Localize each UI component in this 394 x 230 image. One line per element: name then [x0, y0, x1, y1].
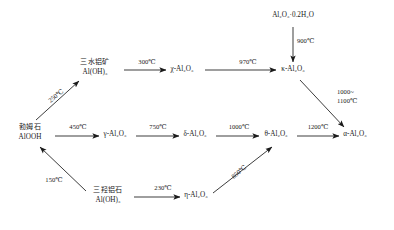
- node-eta-alumina-formula: η-Al₂O₃: [171, 191, 221, 201]
- node-delta-alumina: δ-Al₂O₃: [170, 130, 220, 140]
- node-kappa-alumina: κ-Al₂O₃: [268, 65, 318, 75]
- node-chi-alumina-formula: χ-Al₂O₃: [157, 65, 207, 75]
- node-eta-alumina: η-Al₂O₃: [171, 191, 221, 201]
- arrow-bayerite-to-boehmite: [40, 147, 86, 191]
- edge-label-900c-text: 900℃: [297, 37, 314, 44]
- node-gibbsite-name: 三水铝矿: [65, 58, 125, 68]
- node-chi-alumina: χ-Al₂O₃: [157, 65, 207, 75]
- node-alumina-hydrate-formula: Al₂O₃·0.2H₂O: [248, 11, 338, 21]
- edge-label-300c: 300℃: [129, 58, 165, 66]
- edge-label-900c: 900℃: [297, 37, 333, 45]
- edge-label-1200c: 1200℃: [298, 123, 338, 131]
- edge-label-750c-text: 750℃: [149, 123, 166, 130]
- edge-label-300c-text: 300℃: [138, 58, 155, 65]
- edge-label-1000-1100c: 1000~ 1100℃: [337, 88, 375, 105]
- edge-label-150c: 150℃: [36, 176, 72, 184]
- edge-label-1200c-text: 1200℃: [308, 123, 329, 130]
- node-boehmite-formula: AlOOH: [4, 133, 56, 143]
- node-gamma-alumina: γ-Al₂O₃: [90, 130, 140, 140]
- phase-transformation-diagram: 三水铝矿 Al(OH)₃ χ-Al₂O₃ Al₂O₃·0.2H₂O κ-Al₂O…: [0, 0, 394, 230]
- edge-label-450c-text: 450℃: [69, 123, 86, 130]
- edge-label-1000-1100c-line1: 1000~: [337, 88, 354, 95]
- edge-label-1000-1100c-line2: 1100℃: [337, 97, 357, 104]
- node-gibbsite-formula: Al(OH)₃: [65, 68, 125, 78]
- node-bayerite: 三羟铝石 Al(OH)₃: [78, 186, 138, 205]
- node-alpha-alumina: α-Al₂O₃: [330, 130, 380, 140]
- node-alpha-alumina-formula: α-Al₂O₃: [330, 130, 380, 140]
- node-delta-alumina-formula: δ-Al₂O₃: [170, 130, 220, 140]
- node-bayerite-name: 三羟铝石: [78, 186, 138, 196]
- edge-label-230c-text: 230℃: [154, 184, 171, 191]
- edge-label-970c: 970℃: [230, 58, 266, 66]
- edge-label-1000c: 1000℃: [219, 123, 259, 131]
- edge-label-970c-text: 970℃: [239, 58, 256, 65]
- node-kappa-alumina-formula: κ-Al₂O₃: [268, 65, 318, 75]
- node-boehmite-name: 勃姆石: [4, 123, 56, 133]
- node-alumina-hydrate: Al₂O₃·0.2H₂O: [248, 11, 338, 21]
- edge-label-150c-text: 150℃: [45, 176, 62, 183]
- node-boehmite: 勃姆石 AlOOH: [4, 123, 56, 142]
- node-gamma-alumina-formula: γ-Al₂O₃: [90, 130, 140, 140]
- node-theta-alumina-formula: θ-Al₂O₃: [251, 130, 301, 140]
- node-theta-alumina: θ-Al₂O₃: [251, 130, 301, 140]
- edge-label-750c: 750℃: [140, 123, 176, 131]
- edge-label-1000c-text: 1000℃: [229, 123, 250, 130]
- node-gibbsite: 三水铝矿 Al(OH)₃: [65, 58, 125, 77]
- edge-label-450c: 450℃: [60, 123, 96, 131]
- edge-label-230c: 230℃: [145, 184, 181, 192]
- node-bayerite-formula: Al(OH)₃: [78, 196, 138, 206]
